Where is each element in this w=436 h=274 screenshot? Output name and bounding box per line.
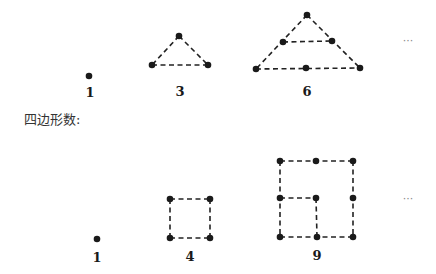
- dot: [86, 73, 93, 80]
- dot: [207, 235, 214, 242]
- dot: [313, 195, 320, 202]
- square-4-label: 4: [185, 249, 194, 264]
- dot: [350, 158, 357, 165]
- dot: [149, 62, 156, 69]
- triangular-ellipsis: ···: [403, 34, 414, 47]
- dot: [304, 12, 311, 19]
- dot: [357, 65, 364, 72]
- square-numbers-title: 四边形数:: [24, 109, 80, 128]
- square-9-label: 9: [312, 248, 321, 263]
- dot: [167, 196, 174, 203]
- dot: [350, 234, 357, 241]
- square-4: 4: [167, 196, 214, 264]
- dot: [329, 38, 336, 45]
- dot: [207, 196, 214, 203]
- dot: [277, 195, 284, 202]
- triangular-6-label: 6: [302, 84, 311, 99]
- square-9: 9: [277, 158, 357, 263]
- edge: [316, 198, 317, 237]
- dot: [277, 234, 284, 241]
- dot: [253, 66, 260, 73]
- dot: [176, 33, 183, 40]
- square-ellipsis: ···: [403, 192, 414, 205]
- dot: [277, 158, 284, 165]
- dot: [167, 235, 174, 242]
- edge: [179, 36, 208, 65]
- dot: [205, 62, 212, 69]
- edge: [283, 41, 332, 42]
- triangular-3: 3: [149, 33, 212, 99]
- dot: [350, 195, 357, 202]
- edge: [152, 36, 179, 65]
- dot: [313, 158, 320, 165]
- square-1: 1: [92, 236, 101, 265]
- dot: [314, 234, 321, 241]
- square-1-label: 1: [92, 250, 101, 265]
- triangular-6: 6: [253, 12, 364, 99]
- triangular-3-label: 3: [175, 84, 184, 99]
- dot: [94, 236, 101, 243]
- figurate-numbers-diagram: 1 3 6 ··· 1 4: [0, 0, 436, 274]
- triangular-1: 1: [85, 73, 94, 100]
- triangular-1-label: 1: [85, 85, 94, 100]
- dot: [280, 39, 287, 46]
- dot: [303, 65, 310, 72]
